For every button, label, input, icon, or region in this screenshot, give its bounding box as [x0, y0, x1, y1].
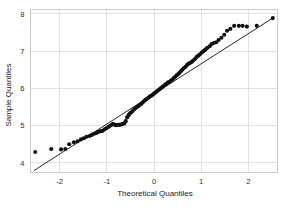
- data-point: [124, 119, 128, 123]
- y-tick-label: 7: [20, 47, 24, 56]
- y-tick-label: 8: [20, 10, 24, 19]
- data-point: [232, 24, 236, 28]
- x-tick-label: 1: [199, 177, 203, 186]
- y-axis-title: Sample Quantiles: [4, 63, 13, 126]
- data-point: [271, 16, 275, 20]
- x-axis-title: Theoretical Quantiles: [117, 189, 193, 198]
- data-point: [241, 24, 245, 28]
- x-tick-labels: -2-1012: [56, 177, 250, 186]
- data-point: [237, 24, 241, 28]
- y-tick-labels: 45678: [20, 10, 24, 168]
- data-point: [245, 25, 249, 29]
- x-tick-label: -1: [104, 177, 111, 186]
- x-tick-label: -2: [56, 177, 63, 186]
- qq-plot-figure: -2-1012 45678 Theoretical Quantiles Samp…: [0, 0, 286, 211]
- x-tick-label: 0: [152, 177, 156, 186]
- y-tick-label: 4: [20, 159, 24, 168]
- data-point: [255, 24, 259, 28]
- data-point: [67, 142, 71, 146]
- data-point: [59, 147, 63, 151]
- y-tick-label: 6: [20, 84, 24, 93]
- data-point: [63, 147, 67, 151]
- y-tick-label: 5: [20, 121, 24, 130]
- data-point: [222, 33, 226, 37]
- qq-plot-canvas: -2-1012 45678 Theoretical Quantiles Samp…: [0, 0, 286, 211]
- data-point: [72, 140, 76, 144]
- data-point: [33, 150, 37, 154]
- x-tick-label: 2: [246, 177, 250, 186]
- data-point: [49, 147, 53, 151]
- data-point: [228, 27, 232, 31]
